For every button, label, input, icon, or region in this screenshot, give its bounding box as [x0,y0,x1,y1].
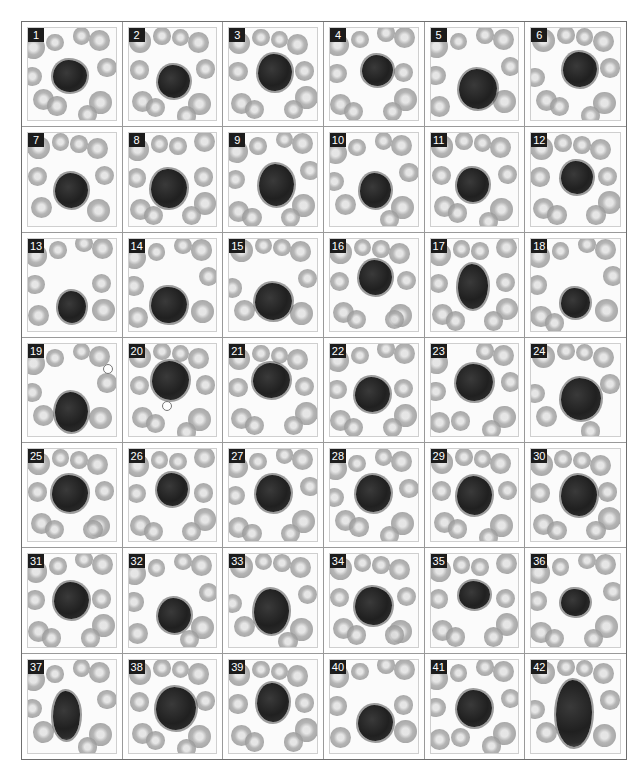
red-blood-cell [430,274,449,293]
stained-cell-nucleus [355,587,392,626]
red-blood-cell [600,690,620,709]
red-blood-cell [271,31,289,49]
red-blood-cell [128,307,148,328]
blood-smear-micrograph: 11 [430,132,520,226]
red-blood-cell [377,659,395,674]
red-blood-cell [471,558,489,576]
panel-number-label: 31 [28,554,44,568]
blood-smear-micrograph: 33 [228,553,318,647]
red-blood-cell [391,451,412,472]
red-blood-cell [287,34,308,55]
red-blood-cell [87,138,108,159]
blood-smear-micrograph: 12 [530,132,621,226]
stained-cell-nucleus [356,475,391,512]
stained-cell-nucleus [257,683,289,722]
red-blood-cell [455,448,473,466]
red-blood-cell [501,689,520,708]
red-blood-cell [128,592,144,611]
red-blood-cell [196,375,215,394]
red-blood-cell [87,199,110,222]
red-blood-cell [394,695,413,714]
red-blood-cell [92,299,115,322]
red-blood-cell [146,731,165,750]
red-blood-cell [182,206,201,225]
red-blood-cell [177,422,196,437]
red-blood-cell [191,239,212,260]
blood-smear-micrograph: 14 [128,238,218,332]
panel-number-label: 29 [431,449,447,463]
panel-number-label: 40 [330,660,346,674]
blood-smear-micrograph: 25 [27,448,117,542]
red-blood-cell [545,629,565,648]
stained-cell-nucleus [58,291,86,322]
stained-cell-nucleus [258,54,291,91]
stained-cell-nucleus [457,476,492,515]
red-blood-cell [586,521,606,540]
red-blood-cell [144,522,163,541]
red-blood-cell [245,732,264,751]
red-blood-cell [550,97,570,116]
red-blood-cell [576,28,594,46]
figure-panel-33: 33 [223,548,324,653]
figure-panel-13: 13 [22,233,123,338]
red-blood-cell [281,524,300,543]
red-blood-cell [354,239,372,257]
figure-panel-10: 10 [324,127,425,232]
red-blood-cell [180,630,199,648]
figure-panel-29: 29 [425,443,526,548]
panel-number-label: 11 [431,133,447,147]
stained-cell-nucleus [457,168,489,201]
blood-smear-micrograph: 16 [329,238,419,332]
red-blood-cell [600,374,620,393]
red-blood-cell [255,553,273,570]
red-blood-cell [474,450,492,468]
red-blood-cell [573,136,591,154]
red-blood-cell [31,197,52,218]
red-blood-cell [335,194,356,215]
red-blood-cell [49,557,67,575]
red-blood-cell [281,208,300,227]
blood-smear-micrograph: 17 [430,238,520,332]
red-blood-cell [228,62,247,81]
red-blood-cell [33,721,54,742]
red-blood-cell [383,102,402,121]
blood-smear-micrograph: 18 [530,238,621,332]
red-blood-cell [177,739,196,754]
panel-number-label: 10 [330,133,346,147]
panel-number-label: 18 [531,239,547,253]
red-blood-cell [455,132,473,150]
red-blood-cell [273,554,291,572]
red-blood-cell [177,106,196,121]
red-blood-cell [295,61,314,80]
red-blood-cell [344,102,363,121]
red-blood-cell [603,266,621,285]
stained-cell-nucleus [359,260,392,295]
red-blood-cell [49,241,67,259]
red-blood-cell [172,661,190,679]
red-blood-cell [474,134,492,152]
red-blood-cell [557,27,575,44]
red-blood-cell [130,60,149,79]
stained-cell-nucleus [561,161,593,194]
red-blood-cell [552,558,570,576]
red-blood-cell [330,727,351,748]
red-blood-cell [380,210,399,227]
red-blood-cell [598,482,618,501]
figure-panel-24: 24 [525,338,626,443]
red-blood-cell [271,663,289,681]
red-blood-cell [249,137,267,155]
red-blood-cell [394,343,415,364]
red-blood-cell [228,694,247,713]
red-blood-cell [496,273,515,292]
panel-number-label: 35 [431,554,447,568]
red-blood-cell [554,450,572,468]
figure-panel-41: 41 [425,654,526,759]
red-blood-cell [276,132,294,148]
red-blood-cell [27,590,45,609]
red-blood-cell [128,276,144,295]
stained-cell-nucleus [53,691,79,740]
blood-smear-micrograph: 19 [27,343,117,437]
red-blood-cell [27,699,42,718]
stained-cell-nucleus [55,392,88,433]
panel-number-label: 26 [129,449,145,463]
